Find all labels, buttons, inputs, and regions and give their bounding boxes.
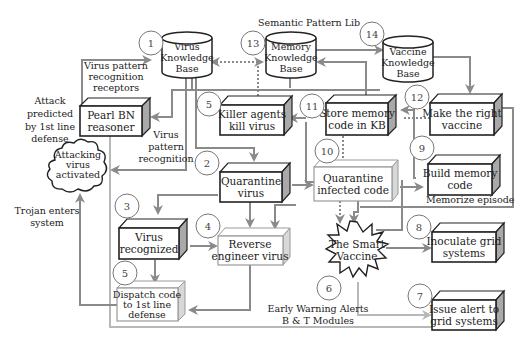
svg-text:receptors: receptors <box>93 82 139 93</box>
node-quarantine-code[interactable]: Quarantine infected code <box>314 160 398 201</box>
node-inoculate[interactable]: Inoculate grid systems <box>426 223 504 262</box>
svg-text:Attack: Attack <box>33 95 65 106</box>
svg-text:4: 4 <box>205 221 211 232</box>
svg-text:Quarantine: Quarantine <box>323 172 383 184</box>
svg-text:Virus pattern: Virus pattern <box>83 60 148 71</box>
node-quarantine-virus[interactable]: Quarantine virus <box>220 163 290 202</box>
svg-text:Inoculate grid: Inoculate grid <box>426 235 501 247</box>
node-pearl-bn[interactable]: Pearl BN reasoner <box>80 98 150 136</box>
diagram-title: Semantic Pattern Lib <box>258 17 360 28</box>
badge-5b: 5 <box>113 261 137 285</box>
svg-text:14: 14 <box>366 29 379 40</box>
svg-text:recognition: recognition <box>138 153 193 164</box>
svg-text:vaccine: vaccine <box>441 119 482 131</box>
badge-5a: 5 <box>197 92 221 116</box>
svg-text:Virus: Virus <box>152 129 178 140</box>
memorize-episode-label: Memorize episode <box>426 194 515 205</box>
svg-text:8: 8 <box>416 222 422 233</box>
svg-text:Base: Base <box>279 63 303 74</box>
svg-text:Base: Base <box>175 63 199 74</box>
annotation-early-warning: Early Warning Alerts B & T Modules <box>268 303 369 326</box>
svg-text:Virus: Virus <box>134 231 163 243</box>
node-reverse-engineer[interactable]: Reverse engineer virus <box>211 228 290 265</box>
svg-text:pattern: pattern <box>148 141 184 152</box>
svg-text:3: 3 <box>124 201 130 212</box>
svg-text:10: 10 <box>321 146 334 157</box>
svg-text:Pearl BN: Pearl BN <box>87 109 135 121</box>
svg-text:Trojan enters: Trojan enters <box>15 205 80 216</box>
badge-1: 1 <box>139 31 163 55</box>
svg-text:recognized: recognized <box>120 243 179 255</box>
svg-text:Issue alert to: Issue alert to <box>429 303 499 315</box>
svg-text:6: 6 <box>326 283 332 294</box>
node-killer-agents[interactable]: Killer agents kill virus <box>218 96 292 135</box>
svg-text:1: 1 <box>148 38 154 49</box>
svg-text:Vaccine: Vaccine <box>336 250 378 262</box>
annotation-trojan: Trojan enters system <box>15 205 80 228</box>
badge-12: 12 <box>405 85 429 109</box>
badge-10: 10 <box>315 139 339 163</box>
svg-text:Store memory: Store memory <box>319 107 395 119</box>
svg-text:9: 9 <box>419 143 425 154</box>
virus-kb-label: Virus <box>173 41 199 52</box>
svg-text:Reverse: Reverse <box>229 238 272 250</box>
badge-9: 9 <box>410 136 434 160</box>
node-make-vaccine[interactable]: Make the right vaccine <box>422 94 502 135</box>
svg-text:11: 11 <box>306 101 319 112</box>
badge-11: 11 <box>300 94 324 118</box>
svg-text:13: 13 <box>247 38 260 49</box>
memory-knowledge-base[interactable]: Memory Knowledge Base <box>264 32 318 78</box>
svg-text:The Smart: The Smart <box>329 238 386 250</box>
badge-6: 6 <box>317 276 341 300</box>
svg-text:systems: systems <box>443 247 486 259</box>
svg-text:5: 5 <box>122 268 128 279</box>
svg-text:12: 12 <box>411 92 424 103</box>
svg-text:infected code: infected code <box>317 184 389 196</box>
svg-text:Quarantine: Quarantine <box>221 175 281 187</box>
svg-text:Memory: Memory <box>271 41 312 52</box>
svg-text:recognition: recognition <box>88 71 143 82</box>
node-attacking-virus[interactable]: Attacking virus activated <box>47 139 106 192</box>
node-store-memory[interactable]: Store memory code in KB <box>319 95 396 135</box>
node-build-memory[interactable]: Build memory code <box>423 155 500 195</box>
svg-text:Build memory: Build memory <box>423 167 498 179</box>
svg-text:kill virus: kill virus <box>229 120 275 132</box>
svg-text:B & T Modules: B & T Modules <box>282 315 354 326</box>
annotation-receptors: Virus pattern recognition receptors <box>83 60 148 93</box>
virus-knowledge-base[interactable]: Virus Knowledge Base <box>160 32 214 78</box>
svg-text:Vaccine: Vaccine <box>388 46 426 57</box>
badge-2: 2 <box>195 151 219 175</box>
svg-text:Make the right: Make the right <box>422 107 502 119</box>
svg-text:predicted: predicted <box>27 108 73 119</box>
svg-text:Early Warning Alerts: Early Warning Alerts <box>268 303 369 314</box>
badge-13: 13 <box>241 31 265 55</box>
svg-text:Base: Base <box>396 68 420 79</box>
svg-text:Knowledge: Knowledge <box>264 52 318 63</box>
svg-text:activated: activated <box>56 169 100 180</box>
svg-text:reasoner: reasoner <box>87 121 135 133</box>
svg-text:code in KB: code in KB <box>328 119 386 131</box>
svg-text:defense: defense <box>128 309 166 320</box>
node-issue-alert[interactable]: Issue alert to grid systems <box>429 291 504 330</box>
svg-text:code: code <box>447 179 472 191</box>
badge-4: 4 <box>196 214 220 238</box>
annotation-attack-predicted: Attack predicted by 1st line defense <box>25 95 75 144</box>
badge-8: 8 <box>407 215 431 239</box>
svg-text:system: system <box>30 217 64 228</box>
svg-text:grid systems: grid systems <box>430 315 498 327</box>
node-dispatch-code[interactable]: Dispatch code to 1st line defense <box>113 281 185 321</box>
svg-text:2: 2 <box>204 158 210 169</box>
vaccine-knowledge-base[interactable]: Vaccine Knowledge Base <box>381 36 435 82</box>
svg-text:Knowledge: Knowledge <box>160 52 214 63</box>
svg-text:virus: virus <box>237 187 264 199</box>
smart-vaccine-diagram: Virus Knowledge Base Memory Knowledge Ba… <box>0 0 532 351</box>
svg-text:7: 7 <box>417 291 423 302</box>
node-virus-recognized[interactable]: Virus recognized <box>119 219 187 259</box>
svg-text:Knowledge: Knowledge <box>381 57 435 68</box>
svg-text:engineer virus: engineer virus <box>211 250 288 262</box>
svg-text:Killer agents: Killer agents <box>218 108 286 120</box>
svg-text:defense: defense <box>31 133 69 144</box>
badge-3: 3 <box>115 194 139 218</box>
badge-7: 7 <box>408 284 432 308</box>
svg-text:5: 5 <box>206 99 212 110</box>
